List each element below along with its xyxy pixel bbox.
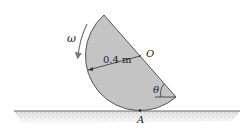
contact-point-label: A bbox=[136, 114, 144, 125]
ground bbox=[14, 111, 240, 123]
center-label: O bbox=[146, 48, 154, 59]
center-point bbox=[139, 55, 141, 57]
theta-label: θ bbox=[153, 84, 159, 95]
radius-label: 0.4 m bbox=[103, 54, 132, 65]
contact-point-marker bbox=[139, 109, 141, 111]
omega-label: ω bbox=[67, 32, 76, 45]
semicircular-disk-diagram: ω 0.4 m O θ A bbox=[0, 0, 252, 129]
